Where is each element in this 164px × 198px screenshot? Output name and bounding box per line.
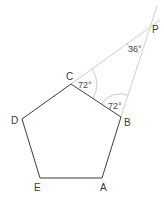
angle-label-b: 72° <box>108 101 122 111</box>
angle-label-c: 72° <box>78 80 92 90</box>
extension-line-b-to-p <box>121 6 157 117</box>
extension-line-c-to-p <box>71 20 160 84</box>
vertex-label-a: A <box>100 182 107 193</box>
pentagon <box>22 84 121 178</box>
vertex-label-p: P <box>152 24 159 35</box>
vertex-label-e: E <box>34 182 41 193</box>
angle-arc-c <box>92 69 97 98</box>
angle-label-p: 36° <box>128 44 142 54</box>
vertex-label-c: C <box>66 71 73 82</box>
vertex-label-d: D <box>11 115 18 126</box>
pentagon-diagram: C B A E D P 72° 72° 36° <box>0 0 164 198</box>
vertex-label-b: B <box>124 117 131 128</box>
